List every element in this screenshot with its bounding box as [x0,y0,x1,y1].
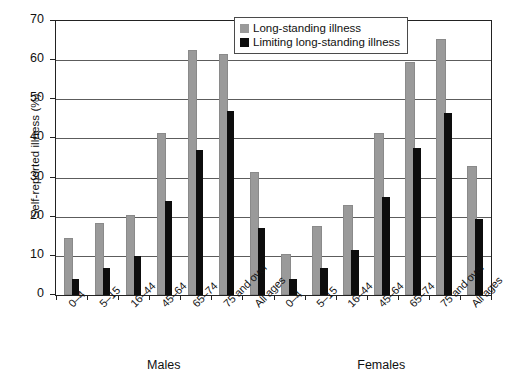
gridline [56,138,491,139]
gridline [56,256,491,257]
legend-label: Long-standing illness [253,22,361,35]
x-axis-tick-mark [305,295,306,300]
bar [475,219,483,295]
bar-chart-figure: Self-reported illness (%) 01020304050607… [0,0,505,384]
group-label-males: Males [104,358,224,372]
y-axis-tick-label: 10 [12,247,44,261]
y-axis-tick-label: 20 [12,208,44,222]
plot-area [55,20,492,296]
y-axis-tick-label: 40 [12,129,44,143]
legend-item-limiting-long-standing-illness: Limiting long-standing illness [240,35,400,49]
chart-legend: Long-standing illness Limiting long-stan… [234,17,408,54]
group-label-females: Females [321,358,441,372]
gridline [56,178,491,179]
y-axis-tick-label: 0 [12,286,44,300]
legend-item-long-standing-illness: Long-standing illness [240,21,400,35]
bar [382,197,390,295]
legend-swatch-icon-dark [240,38,249,47]
y-axis-tick-label: 70 [12,12,44,26]
gridline [56,217,491,218]
legend-swatch-icon-light [240,24,249,33]
gridline [56,60,491,61]
bar [165,201,173,295]
y-axis-tick-label: 50 [12,90,44,104]
legend-label: Limiting long-standing illness [253,36,400,49]
x-axis-tick-mark [56,295,57,300]
gridline [56,99,491,100]
bar [227,111,235,295]
y-axis-tick-label: 60 [12,51,44,65]
bar [413,148,421,295]
y-axis-tick-label: 30 [12,169,44,183]
bar [196,150,204,295]
bar [444,113,452,295]
